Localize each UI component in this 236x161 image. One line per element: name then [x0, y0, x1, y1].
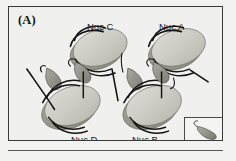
- figure-panel-a: (A) Nuc C Nuc A Nuc D Nuc B histone H1: [8, 6, 223, 141]
- bottom-divider: [8, 150, 223, 151]
- page-title: (A): [18, 13, 36, 28]
- figure-root: (A) Nuc C Nuc A Nuc D Nuc B histone H1: [0, 0, 236, 161]
- legend-box: histone H1: [184, 117, 223, 141]
- linker-dna-free-right: [190, 70, 208, 82]
- nuc-b-label: Nuc B: [132, 134, 158, 141]
- legend-caption: histone H1: [185, 140, 223, 141]
- nuc-c-label: Nuc C: [87, 21, 113, 32]
- nuc-a-label: Nuc A: [159, 21, 184, 32]
- nucleosome-d: [27, 66, 106, 137]
- legend-histone-h1-icon: [185, 118, 223, 141]
- nuc-d-label: Nuc D: [71, 134, 97, 141]
